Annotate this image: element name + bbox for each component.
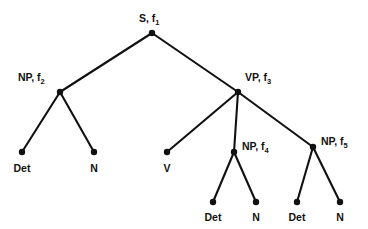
tree-edge-np4-n2 <box>234 152 256 202</box>
tree-node-label-s1: S, f1 <box>139 12 160 27</box>
tree-node-dot-np4 <box>231 149 237 155</box>
tree-node-label-det2: Det <box>205 211 222 223</box>
tree-node-label-det1: Det <box>14 162 31 174</box>
tree-edge-np2-n1 <box>60 92 94 152</box>
tree-node-dot-n2 <box>253 199 259 205</box>
tree-node-label-np4: NP, f4 <box>242 140 270 155</box>
syntax-tree-figure: S, f1NP, f2VP, f3DetNVNP, f4NP, f5DetNDe… <box>0 0 368 229</box>
tree-node-label-np2: NP, f2 <box>18 71 45 86</box>
label-group: S, f1NP, f2VP, f3DetNVNP, f4NP, f5DetNDe… <box>14 12 348 223</box>
tree-node-label-det3: Det <box>289 211 306 223</box>
tree-edge-np4-det2 <box>213 152 234 202</box>
tree-node-dot-det1 <box>19 149 25 155</box>
tree-node-dot-det3 <box>294 199 300 205</box>
tree-node-dot-det2 <box>210 199 216 205</box>
tree-node-dot-n3 <box>337 199 343 205</box>
tree-node-dot-np5 <box>310 144 316 150</box>
tree-node-label-v1: V <box>163 162 170 174</box>
tree-edge-np5-det3 <box>297 147 313 202</box>
tree-edge-s1-np2 <box>60 33 152 92</box>
tree-canvas: S, f1NP, f2VP, f3DetNVNP, f4NP, f5DetNDe… <box>0 0 368 229</box>
tree-node-label-n1: N <box>90 162 98 174</box>
tree-edge-vp3-np4 <box>234 92 238 152</box>
tree-edge-np2-det1 <box>22 92 60 152</box>
tree-edge-vp3-v1 <box>167 92 238 152</box>
tree-node-dot-s1 <box>149 30 155 36</box>
tree-node-dot-n1 <box>91 149 97 155</box>
tree-node-label-n2: N <box>252 211 260 223</box>
tree-node-dot-v1 <box>164 149 170 155</box>
tree-node-label-vp3: VP, f3 <box>245 71 271 86</box>
node-group <box>19 30 343 205</box>
tree-node-label-np5: NP, f5 <box>321 135 348 150</box>
tree-edge-vp3-np5 <box>238 92 313 147</box>
tree-node-dot-np2 <box>57 89 63 95</box>
tree-node-dot-vp3 <box>235 89 241 95</box>
tree-edge-s1-vp3 <box>152 33 238 92</box>
tree-node-label-n3: N <box>336 211 344 223</box>
edge-group <box>22 33 340 202</box>
tree-edge-np5-n3 <box>313 147 340 202</box>
